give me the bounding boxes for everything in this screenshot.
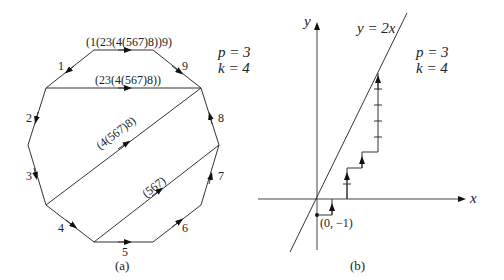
edge-label: 7: [218, 169, 224, 183]
line-label: y = 2x: [355, 20, 396, 36]
edge-label: 9: [182, 59, 188, 73]
caption-b: (b): [350, 258, 365, 273]
edge-label: 6: [182, 221, 188, 235]
edge-label: 8: [218, 111, 224, 125]
edge-label: 5: [122, 245, 128, 259]
arrow-icon: [172, 221, 180, 227]
chord-label: (1(23(4(567)8))9): [86, 35, 172, 49]
polygon-diagram: 1 2 3 4 5 6 7 8 9 (1(23(4(567)8))9) (23(…: [26, 35, 251, 273]
edge-label: 4: [58, 221, 64, 235]
arrow-icon: [66, 220, 74, 226]
param-p: p = 3: [415, 44, 449, 60]
edge-label: 1: [58, 59, 64, 73]
start-point-label: (0, −1): [320, 216, 353, 230]
chord-label: (4(567)8): [93, 114, 138, 153]
y-axis-label: y: [302, 13, 311, 29]
figure: 1 2 3 4 5 6 7 8 9 (1(23(4(567)8))9) (23(…: [0, 0, 504, 280]
edge-label: 3: [26, 169, 32, 183]
arrow-icon: [68, 66, 74, 71]
param-p: p = 3: [217, 44, 251, 60]
lattice-path-diagram: y x y = 2x (0, −1) p = 3 k = 4 (b): [258, 13, 477, 273]
arrow-icon: [36, 112, 38, 120]
param-k: k = 4: [218, 60, 250, 76]
edge-label: 2: [26, 111, 32, 125]
x-axis-label: x: [469, 190, 477, 206]
chord-label: (23(4(567)8)): [95, 73, 161, 87]
arrow-icon: [172, 66, 180, 72]
param-k: k = 4: [416, 60, 448, 76]
arrow-icon: [118, 143, 127, 149]
caption-a: (a): [115, 258, 129, 273]
chord-4: [46, 88, 201, 205]
chord-label: (567): [139, 174, 168, 201]
arrow-icon: [210, 116, 212, 124]
